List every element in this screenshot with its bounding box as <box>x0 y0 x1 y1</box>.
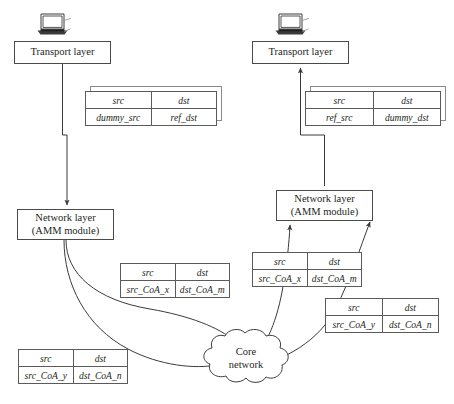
table-row-headers: src dst <box>306 92 441 109</box>
transport-layer-left-box[interactable]: Transport layer <box>14 41 111 64</box>
value-dst: ref_dst <box>151 109 217 126</box>
header-dst: dst <box>373 92 441 109</box>
packet-table: src dst src_CoA_y dst_CoA_n <box>325 298 439 333</box>
packet-table: src dst src_CoA_y dst_CoA_n <box>18 349 128 384</box>
table-row-headers: src dst <box>121 264 230 281</box>
laptop-icon <box>38 14 72 35</box>
header-dst: dst <box>307 253 362 270</box>
table-row-values: src_CoA_y dst_CoA_n <box>326 316 439 333</box>
value-src: src_CoA_y <box>326 316 383 333</box>
packet-table-src-coa-y-dst-coa-n-right[interactable]: src dst src_CoA_y dst_CoA_n <box>325 298 439 333</box>
packet-table: src dst ref_src dummy_dst <box>305 91 441 126</box>
value-dst: dummy_dst <box>373 109 441 126</box>
packet-table-ref-src-dummy-dst[interactable]: src dst ref_src dummy_dst <box>305 91 441 126</box>
packet-table-src-coa-x-dst-coa-m-right[interactable]: src dst src_CoA_x dst_CoA_m <box>252 252 362 287</box>
network-layer-left-label-line-2: (AMM module) <box>32 225 99 238</box>
packet-table: src dst src_CoA_x dst_CoA_m <box>120 263 230 298</box>
network-layer-right-box[interactable]: Network layer (AMM module) <box>276 190 373 221</box>
value-src: ref_src <box>306 109 374 126</box>
header-src: src <box>86 92 152 109</box>
value-src: src_CoA_y <box>19 367 74 384</box>
value-src: src_CoA_x <box>253 270 308 287</box>
value-src: src_CoA_x <box>121 281 176 298</box>
header-dst: dst <box>382 299 439 316</box>
network-layer-left-box[interactable]: Network layer (AMM module) <box>17 209 114 240</box>
header-src: src <box>326 299 383 316</box>
packet-table: src dst dummy_src ref_dst <box>85 91 217 126</box>
header-src: src <box>253 253 308 270</box>
value-dst: dst_CoA_n <box>73 367 128 384</box>
packet-table: src dst src_CoA_x dst_CoA_m <box>252 252 362 287</box>
value-dst: dst_CoA_n <box>382 316 439 333</box>
value-src: dummy_src <box>86 109 152 126</box>
value-dst: dst_CoA_m <box>307 270 362 287</box>
table-row-headers: src dst <box>19 350 128 367</box>
header-dst: dst <box>151 92 217 109</box>
network-layer-right-label-line-2: (AMM module) <box>291 206 358 219</box>
cloud-label-line-1: Core <box>236 346 257 357</box>
laptop-icon <box>276 14 310 35</box>
network-layer-left-label-line-1: Network layer <box>35 212 95 225</box>
packet-table-src-coa-y-dst-coa-n-left[interactable]: src dst src_CoA_y dst_CoA_n <box>18 349 128 384</box>
value-dst: dst_CoA_m <box>175 281 230 298</box>
network-diagram-canvas: Core network Transport layer Transport l… <box>0 0 454 404</box>
cloud-label-line-2: network <box>229 359 264 370</box>
table-row-values: ref_src dummy_dst <box>306 109 441 126</box>
transport-layer-right-box[interactable]: Transport layer <box>252 41 349 64</box>
network-layer-right-label-line-1: Network layer <box>294 193 354 206</box>
table-row-values: src_CoA_y dst_CoA_n <box>19 367 128 384</box>
table-row-headers: src dst <box>253 253 362 270</box>
table-row-headers: src dst <box>326 299 439 316</box>
header-src: src <box>306 92 374 109</box>
header-src: src <box>19 350 74 367</box>
table-row-values: src_CoA_x dst_CoA_m <box>253 270 362 287</box>
header-dst: dst <box>73 350 128 367</box>
connector-left-transport-to-network <box>63 64 68 205</box>
table-row-headers: src dst <box>86 92 217 109</box>
transport-layer-right-label: Transport layer <box>268 46 332 59</box>
packet-table-dummy-src-ref-dst[interactable]: src dst dummy_src ref_dst <box>85 91 217 126</box>
connector-left-network-to-cloud-lower <box>64 240 216 367</box>
header-src: src <box>121 264 176 281</box>
table-row-values: src_CoA_x dst_CoA_m <box>121 281 230 298</box>
transport-layer-left-label: Transport layer <box>30 46 94 59</box>
header-dst: dst <box>175 264 230 281</box>
packet-table-src-coa-x-dst-coa-m-left[interactable]: src dst src_CoA_x dst_CoA_m <box>120 263 230 298</box>
table-row-values: dummy_src ref_dst <box>86 109 217 126</box>
